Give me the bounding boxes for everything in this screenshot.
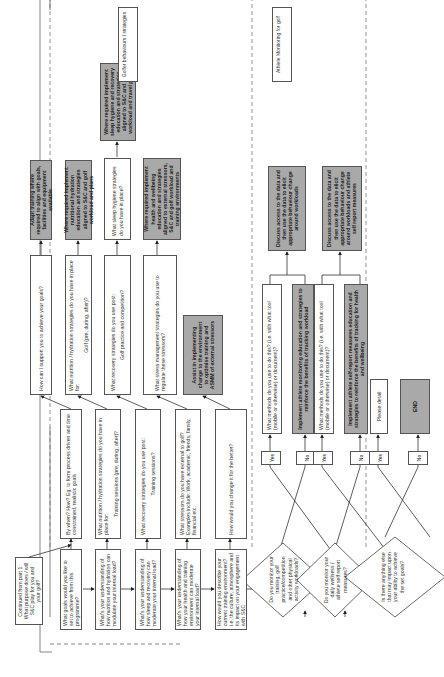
row2-col2-sub: Training sessions (pre, during, after)? [113,413,119,535]
decision1-no-text: Implement athlete monitoring education a… [297,288,309,430]
row4-col3-text: What stress management strategies do you… [154,259,166,391]
row4-col1-text: What's your understanding of how your he… [176,553,201,626]
decision3-no: No [408,451,428,465]
decision3-yes-text: Please detail [376,383,382,430]
row1-col3-text: How can I support you to achieve your go… [38,259,44,391]
decision3-yes-box: Please detail [370,379,388,434]
row5-col1-box: How would you describe your current trai… [215,549,247,630]
row2-col4-box: Where required implement nutritional hyd… [65,160,92,240]
header-athlete-monitoring-label: Athlete Monitoring for golf [272,7,292,82]
decision2-yes-text: What methods do you use to do this? (i.e… [318,288,330,430]
row2-col3-text: What nutrition / hydration strategies do… [68,259,80,391]
flowchart-canvas: Continued from part 1: What purpose does… [0,0,444,677]
row3-col3-text: What recovery strategies do you use post… [110,259,116,391]
decision2-no-box: Implement athlete self-report measures e… [344,284,368,434]
row1-col1-text: What goals would you like to set to achi… [62,553,81,626]
row3-col4-text: What sleep hygiene strategies do you hav… [111,162,123,236]
decision3-question: Is there anything else that may impact u… [380,549,405,605]
decision2-question: Do you monitor your daily wellness / ath… [323,555,348,605]
decision3-end-box: END [400,379,430,434]
row4-col3-box: What stress management strategies do you… [143,255,177,395]
decision2-no: No [350,451,370,465]
row3-col1-text: What's your understanding of how sleep a… [139,553,158,626]
decision1-outcome-text: Discuss access to the data and then use … [275,170,300,247]
decision1-yes-text: What methods do you use to do this? (i.e… [266,288,278,430]
row3-col4-box: What sleep hygiene strategies do you hav… [104,158,131,240]
start-text: Continued from part 1: What purpose does… [17,561,42,621]
row4-col4-box: Where required implement health and well… [143,158,181,240]
row3-col3-box: What recovery strategies do you use post… [104,255,131,395]
header-right-text: Athlete Monitoring for golf [275,16,281,73]
row2-col3-box: What nutrition / hydration strategies do… [65,255,92,395]
row5-col3-text: Assist in implementing change to the env… [191,319,216,391]
row2-col2-box: What nutrition / hydration strategies do… [95,409,121,539]
decision2-yes: Yes [313,451,333,465]
row3-col2-text: What recovery strategies do you use post… [140,413,146,535]
row1-col4-text: Adapt training where required to align w… [29,164,54,236]
decision1-outcome-box: Discuss access to the data and then use … [268,166,306,251]
row5-col2-box: How would you change it for the better? [215,409,247,539]
row2-col1-box: What's your understanding of how nutriti… [95,549,121,630]
decision3-yes: Yes [369,451,389,465]
row3-col1-box: What's your understanding of how sleep a… [135,549,161,630]
row5-col3-box: Assist in implementing change to the env… [183,315,223,395]
row5-col1-text: How would you describe your current trai… [216,553,247,626]
row1-col2-box: By when? How? Eg. to form process driven… [60,409,82,539]
decision2-no-text: Implement athlete self-report measures e… [347,288,366,430]
row3-col2-box: What recovery strategies do you use post… [135,409,161,539]
decision1-question: Do you monitor your training, golf pract… [268,552,299,607]
row3-col3-sub: Golf practice and competition? [119,259,125,391]
header-golfer-behaviours-label: Golfer behaviours / strategies [118,7,138,82]
row2-col4-text: Where required implement nutritional hyd… [63,164,94,236]
decision1-yes: Yes [261,451,281,465]
row2-col3-sub: Golf (pre, during, after)? [83,259,89,391]
row2-col1-text: What's your understanding of how nutriti… [99,553,118,626]
decision2-outcome-box: Discuss access to the data and then use … [322,166,362,251]
row1-col3-box: How can I support you to achieve your go… [30,255,52,395]
row3-col2-sub: Training sessions? [150,413,156,535]
row1-col1-box: What goals would you like to set to achi… [60,549,82,630]
row5-col2-text: How would you change it for the better? [228,413,234,535]
row4-col2-box: What stressors do you have external to g… [175,409,201,539]
row4-col1-box: What's your understanding of how your he… [175,549,201,630]
row4-col2-sub: Examples include: Work, academic, friend… [185,413,197,535]
row2-col2-text: What nutrition / hydration strategies do… [97,413,109,535]
decision3-end-text: END [412,383,418,430]
row1-col2-text: By when? How? Eg. to form process driven… [65,413,77,535]
start-box: Continued from part 1: What purpose does… [15,557,43,625]
decision1-yes-box: What methods do you use to do this? (i.e… [262,284,282,434]
decision2-outcome-text: Discuss access to the data and then use … [326,170,357,247]
header-left-text: Golfer behaviours / strategies [121,12,127,77]
decision2-yes-box: What methods do you use to do this? (i.e… [314,284,334,434]
row1-col4-box: Adapt training where required to align w… [30,160,52,240]
row4-col4-text: Where required implement health and well… [143,162,180,236]
decision1-no-box: Implement athlete monitoring education a… [292,284,314,434]
